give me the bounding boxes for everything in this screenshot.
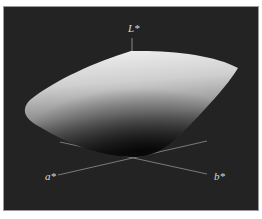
l-axis-label: L* bbox=[128, 22, 140, 34]
a-axis-label: a* bbox=[45, 170, 56, 182]
b-axis-label: b* bbox=[214, 170, 225, 182]
